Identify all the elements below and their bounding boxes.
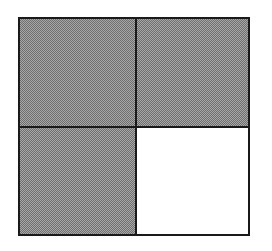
cell-bottom-left-shaded bbox=[20, 128, 135, 234]
cell-top-right-shaded bbox=[137, 19, 248, 126]
horizontal-divider bbox=[20, 126, 248, 128]
fraction-grid bbox=[18, 17, 250, 236]
cell-top-left-shaded bbox=[20, 19, 135, 126]
cell-bottom-right-unshaded bbox=[137, 128, 248, 234]
